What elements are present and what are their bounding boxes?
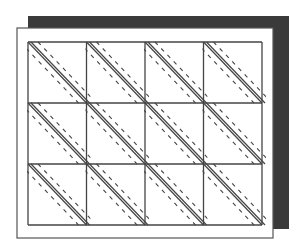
diagram-canvas — [0, 0, 298, 249]
